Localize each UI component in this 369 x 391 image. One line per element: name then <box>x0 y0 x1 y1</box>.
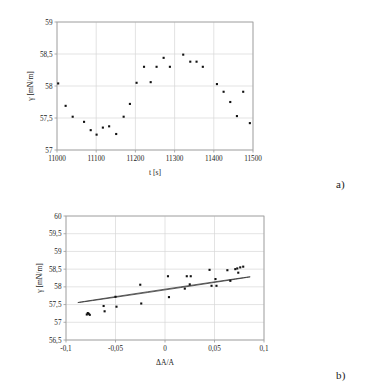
data-point <box>242 266 244 268</box>
data-point <box>229 101 231 103</box>
x-axis-title: t [s] <box>149 168 161 177</box>
data-points <box>57 54 251 136</box>
x-axis-tick-labels: -0,1-0,0500,050,1 <box>60 345 269 353</box>
data-point <box>103 305 105 307</box>
data-point <box>234 268 236 270</box>
data-point <box>65 105 67 107</box>
data-point <box>210 285 212 287</box>
data-point <box>202 66 204 68</box>
y-tick-label: 57 <box>54 319 62 327</box>
data-point <box>186 275 188 277</box>
y-axis-title: γ [mN/m] <box>26 71 35 102</box>
data-point <box>236 115 238 117</box>
x-tick-label: 0,05 <box>208 345 221 353</box>
data-point <box>189 283 191 285</box>
y-tick-label: 59 <box>45 19 53 27</box>
data-point <box>150 81 152 83</box>
data-point <box>72 116 74 118</box>
y-tick-label: 58,5 <box>40 51 53 59</box>
x-tick-label: 11500 <box>244 155 262 163</box>
data-point <box>184 288 186 290</box>
y-tick-label: 58 <box>45 83 53 91</box>
data-point <box>115 133 117 135</box>
data-point <box>114 296 116 298</box>
x-tick-label: 11300 <box>166 155 184 163</box>
data-point <box>242 91 244 93</box>
data-point <box>168 296 170 298</box>
y-tick-label: 59 <box>54 248 62 256</box>
x-tick-label: -0,1 <box>60 345 72 353</box>
data-point <box>196 61 198 63</box>
gridlines <box>57 22 253 150</box>
panel-label-a: a) <box>336 178 345 190</box>
data-point <box>104 310 106 312</box>
data-point <box>215 285 217 287</box>
data-point <box>129 103 131 105</box>
data-point <box>139 284 141 286</box>
data-point <box>102 127 104 129</box>
data-point <box>96 134 98 136</box>
data-point <box>209 269 211 271</box>
data-point <box>216 83 218 85</box>
y-tick-label: 57,5 <box>40 115 53 123</box>
tick-marks <box>64 216 265 343</box>
x-tick-label: 0,1 <box>260 345 269 353</box>
data-point <box>214 278 216 280</box>
y-axis-title: γ [mN/m] <box>35 263 44 294</box>
hysteresis-loop-fit-ellipse <box>78 276 250 302</box>
x-axis-tick-labels: 110001110011200113001140011500 <box>48 155 262 163</box>
x-tick-label: 11200 <box>127 155 145 163</box>
data-point <box>156 66 158 68</box>
data-point <box>140 302 142 304</box>
y-tick-label: 56,5 <box>49 337 62 345</box>
data-point <box>83 121 85 123</box>
x-tick-label: 11100 <box>87 155 105 163</box>
data-point <box>226 269 228 271</box>
data-point <box>167 275 169 277</box>
panel-label-b: b) <box>336 369 346 381</box>
data-point <box>239 266 241 268</box>
scatter-plot-b: 56,55757,55858,55959,560-0,1-0,0500,050,… <box>0 196 369 391</box>
data-point <box>108 125 110 127</box>
data-point <box>90 129 92 131</box>
scatter-plot-a: 5757,55858,55911000111001120011300114001… <box>0 0 369 200</box>
y-tick-label: 60 <box>54 213 62 221</box>
x-tick-label: 0 <box>163 345 167 353</box>
y-axis-tick-labels: 5757,55858,559 <box>40 19 53 155</box>
y-axis-tick-labels: 56,55757,55858,55959,560 <box>49 213 62 345</box>
data-point <box>189 61 191 63</box>
data-point <box>229 280 231 282</box>
data-point <box>182 54 184 56</box>
data-point <box>143 66 145 68</box>
y-tick-label: 58 <box>54 283 62 291</box>
y-tick-label: 59,5 <box>49 230 62 238</box>
x-tick-label: -0,05 <box>108 345 123 353</box>
figure-container: 5757,55858,55911000111001120011300114001… <box>0 0 369 391</box>
data-point <box>163 57 165 59</box>
data-point <box>223 91 225 93</box>
y-tick-label: 57 <box>45 147 53 155</box>
data-point <box>169 66 171 68</box>
y-tick-label: 58,5 <box>49 266 62 274</box>
data-point <box>249 122 251 124</box>
data-point <box>190 275 192 277</box>
data-point <box>115 306 117 308</box>
y-tick-label: 57,5 <box>49 301 62 309</box>
data-point <box>237 272 239 274</box>
chart-panel-a: 5757,55858,55911000111001120011300114001… <box>0 0 369 200</box>
x-axis-title: ΔA/A <box>156 358 174 367</box>
data-point <box>136 82 138 84</box>
chart-panel-b: 56,55757,55858,55959,560-0,1-0,0500,050,… <box>0 196 369 391</box>
data-point <box>89 314 91 316</box>
gridlines <box>66 216 264 340</box>
data-point <box>123 116 125 118</box>
data-point <box>57 82 59 84</box>
data-point <box>236 267 238 269</box>
tick-marks <box>55 22 254 153</box>
x-tick-label: 11400 <box>205 155 223 163</box>
x-tick-label: 11000 <box>48 155 66 163</box>
